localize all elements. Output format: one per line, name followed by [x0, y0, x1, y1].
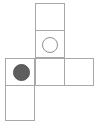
grid-cell-r4c1[interactable] [5, 85, 35, 121]
grid-cell-r3c2[interactable] [35, 58, 65, 86]
filled-circle-token[interactable] [13, 64, 30, 81]
grid-puzzle-figure [0, 0, 100, 126]
grid-cell-r1c2[interactable] [35, 3, 65, 31]
hollow-circle-token[interactable] [42, 37, 58, 53]
grid-cell-r3c3[interactable] [64, 58, 94, 86]
